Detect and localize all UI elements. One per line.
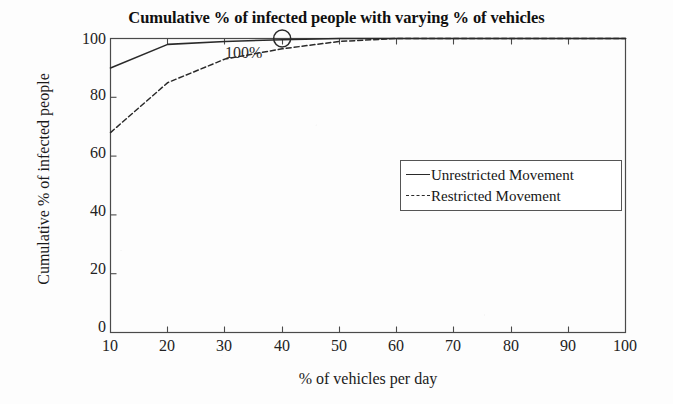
legend-line-sample-solid-icon [405, 169, 431, 181]
series-line-unrestricted [111, 39, 626, 68]
legend-line-sample-dashed-icon [405, 190, 431, 202]
chart-legend: Unrestricted Movement Restricted Movemen… [400, 160, 622, 211]
y-tick-marks [111, 97, 117, 273]
data-series-group [111, 39, 626, 133]
chart-figure: Cumulative % of infected people with var… [0, 0, 673, 404]
annotation-label-100: 100% [225, 44, 262, 62]
legend-item-unrestricted[interactable]: Unrestricted Movement [405, 164, 617, 185]
legend-label: Restricted Movement [431, 188, 561, 204]
series-line-restricted [111, 39, 626, 133]
legend-item-restricted[interactable]: Restricted Movement [405, 185, 617, 206]
legend-label: Unrestricted Movement [431, 167, 574, 183]
